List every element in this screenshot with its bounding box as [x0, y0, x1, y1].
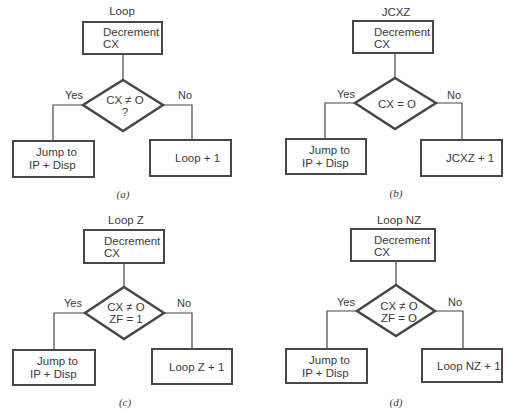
process-box-a: Decrement CX: [82, 21, 163, 55]
process-box-c-line2: CX: [104, 247, 120, 260]
yes-box-c-line1: Jump to: [37, 355, 78, 368]
process-box-d: Decrement CX: [350, 228, 436, 262]
yes-box-d-line1: Jump to: [309, 354, 350, 367]
no-label-b: No: [447, 89, 461, 102]
no-box-a-line1: Loop + 1: [175, 152, 220, 165]
yes-label-d: Yes: [337, 296, 355, 309]
no-box-b: JCXZ + 1: [420, 139, 503, 177]
no-box-c-line1: Loop Z + 1: [169, 361, 224, 374]
connector-d-yes: [327, 311, 357, 348]
yes-box-a-line1: Jump to: [36, 146, 77, 159]
connector-d-no: [435, 311, 463, 348]
caption-b: (b): [390, 187, 403, 200]
panel-a-title: Loop: [109, 5, 135, 18]
connector-b-no: [436, 103, 462, 139]
yes-label-c: Yes: [64, 297, 82, 310]
connector-a-no: [163, 105, 192, 140]
no-box-b-line1: JCXZ + 1: [446, 152, 494, 165]
panel-b-title: JCXZ: [382, 6, 411, 19]
yes-box-a: Jump to IP + Disp: [12, 140, 95, 178]
yes-label-b: Yes: [337, 88, 355, 101]
no-label-d: No: [448, 296, 462, 309]
connector-c-no: [164, 313, 192, 348]
yes-box-b-line1: Jump to: [309, 144, 350, 157]
yes-label-a: Yes: [65, 89, 83, 102]
yes-box-c: Jump to IP + Disp: [12, 349, 96, 386]
yes-box-b-line2: IP + Disp: [302, 157, 349, 170]
caption-a: (a): [117, 188, 130, 201]
no-label-c: No: [177, 297, 191, 310]
decision-b-line1: CX = O: [378, 98, 416, 111]
caption-d: (d): [390, 396, 403, 409]
process-box-c: Decrement CX: [83, 229, 165, 264]
yes-box-c-line2: IP + Disp: [30, 368, 77, 381]
yes-box-d-line2: IP + Disp: [302, 367, 349, 380]
process-box-b: Decrement CX: [352, 20, 434, 54]
yes-box-a-line2: IP + Disp: [29, 159, 76, 172]
yes-box-b: Jump to IP + Disp: [285, 138, 367, 175]
no-box-c: Loop Z + 1: [151, 348, 233, 385]
process-box-b-line2: CX: [374, 38, 390, 51]
no-box-d-line1: Loop NZ + 1: [437, 360, 501, 373]
connector-b-yes: [325, 103, 355, 138]
panel-d-title: Loop NZ: [377, 214, 421, 227]
decision-d-line2: ZF = O: [381, 312, 417, 325]
decision-a-line2: ?: [122, 106, 128, 119]
no-box-a: Loop + 1: [149, 139, 232, 177]
connector-a-yes: [53, 105, 83, 140]
decision-c-line2: ZF = 1: [109, 313, 143, 326]
no-box-d: Loop NZ + 1: [421, 348, 503, 383]
connector-c-yes: [54, 313, 85, 349]
caption-c: (c): [119, 396, 131, 409]
panel-c-title: Loop Z: [108, 214, 144, 227]
no-label-a: No: [178, 89, 192, 102]
process-box-d-line2: CX: [374, 246, 390, 259]
process-box-a-line2: CX: [103, 38, 119, 51]
yes-box-d: Jump to IP + Disp: [285, 348, 368, 384]
